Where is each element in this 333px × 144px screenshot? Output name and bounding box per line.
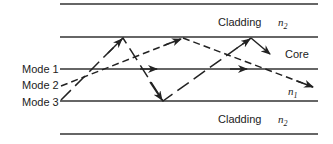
mode-3-label: Mode 3	[22, 96, 59, 108]
n1-label: n1	[288, 85, 298, 100]
core-label: Core	[285, 48, 309, 60]
n2-top-label: n2	[278, 16, 288, 31]
cladding-bottom-label: Cladding	[218, 113, 261, 125]
mode-2-label: Mode 2	[22, 79, 59, 91]
cladding-top-label: Cladding	[218, 16, 261, 28]
n2-bottom-label: n2	[278, 113, 288, 128]
mode-1-label: Mode 1	[22, 63, 59, 75]
fiber-diagram: Mode 1 Mode 2 Mode 3 Cladding n2 Core n1…	[0, 0, 333, 144]
